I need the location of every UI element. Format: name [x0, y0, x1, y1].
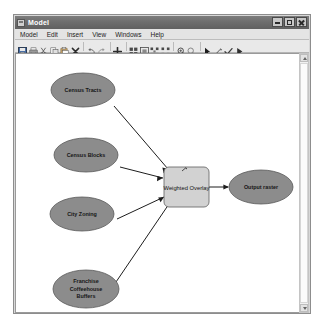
- model-icon: [17, 19, 25, 27]
- scroll-down-button[interactable]: [300, 304, 308, 312]
- print-icon[interactable]: [29, 42, 38, 51]
- menu-item-view[interactable]: View: [91, 31, 107, 38]
- run-icon[interactable]: [235, 42, 244, 51]
- menu-item-model[interactable]: Model: [19, 31, 39, 38]
- node-label-output-raster: Output raster: [244, 184, 279, 190]
- scroll-up-button[interactable]: [300, 54, 308, 62]
- arrowhead-output-raster: [223, 184, 229, 189]
- node-output-raster[interactable]: Output raster: [229, 170, 293, 204]
- full-extent-icon[interactable]: [140, 42, 149, 51]
- model-diagram: Census Tracts Census Blocks City Zoning …: [16, 54, 300, 313]
- delete-icon[interactable]: [71, 42, 80, 51]
- vertical-scrollbar[interactable]: [299, 53, 309, 313]
- run-check-icon[interactable]: [224, 42, 233, 51]
- toolbar-separator-2: [108, 42, 112, 51]
- node-label-census-blocks: Census Blocks: [67, 152, 106, 158]
- connector-census-blocks: [120, 167, 163, 178]
- connect-icon[interactable]: [214, 42, 223, 51]
- redo-icon[interactable]: [97, 42, 106, 51]
- node-label-franchise-line1: Franchise: [73, 278, 98, 284]
- toolbar: [15, 40, 309, 53]
- scrollbar-thumb[interactable]: [300, 63, 308, 303]
- menu-item-edit[interactable]: Edit: [46, 31, 59, 38]
- validate-icon[interactable]: [150, 42, 159, 51]
- copy-icon[interactable]: [50, 42, 59, 51]
- node-label-city-zoning: City Zoning: [67, 211, 97, 217]
- save-icon[interactable]: [18, 42, 27, 51]
- zoom-out-icon[interactable]: [187, 42, 196, 51]
- node-census-blocks[interactable]: Census Blocks: [54, 138, 118, 172]
- toolbar-separator-3: [124, 42, 128, 51]
- diagram-properties-icon[interactable]: [161, 42, 170, 51]
- toolbar-separator-4: [171, 42, 175, 51]
- menu-bar: Model Edit Insert View Windows Help: [15, 29, 309, 40]
- window-title: Model: [28, 19, 49, 26]
- add-data-icon[interactable]: [113, 42, 122, 51]
- model-canvas[interactable]: Census Tracts Census Blocks City Zoning …: [15, 53, 300, 313]
- select-pointer-icon[interactable]: [203, 42, 212, 51]
- undo-icon[interactable]: [87, 42, 96, 51]
- close-button[interactable]: [296, 17, 307, 27]
- node-label-franchise-line2: Coffeehouse: [70, 286, 103, 292]
- menu-item-insert[interactable]: Insert: [66, 31, 84, 38]
- node-label-franchise-line3: Buffers: [77, 293, 96, 299]
- menu-item-help[interactable]: Help: [150, 31, 165, 38]
- node-census-tracts[interactable]: Census Tracts: [51, 73, 115, 107]
- node-city-zoning[interactable]: City Zoning: [50, 197, 114, 231]
- connector-census-tracts: [114, 106, 168, 169]
- node-label-census-tracts: Census Tracts: [65, 87, 102, 93]
- maximize-button[interactable]: [284, 17, 295, 27]
- minimize-button[interactable]: [272, 17, 283, 27]
- cut-icon[interactable]: [39, 42, 48, 51]
- zoom-in-icon[interactable]: [177, 42, 186, 51]
- paste-icon[interactable]: [60, 42, 69, 51]
- connector-city-zoning: [117, 197, 164, 219]
- toolbar-separator-1: [81, 42, 85, 51]
- window-controls: [272, 17, 307, 27]
- title-bar[interactable]: Model: [15, 16, 309, 29]
- node-label-weighted-overlay: Weighted Overlay: [164, 185, 210, 191]
- connector-franchise-buffers: [116, 201, 171, 282]
- toolbar-separator-5: [198, 42, 202, 51]
- auto-layout-icon[interactable]: [129, 42, 138, 51]
- node-weighted-overlay[interactable]: Weighted Overlay: [164, 167, 210, 207]
- node-franchise-coffeehouse-buffers[interactable]: Franchise Coffeehouse Buffers: [53, 270, 119, 308]
- model-builder-window: Model Model Edit Insert View Windows Hel…: [13, 14, 311, 314]
- menu-item-windows[interactable]: Windows: [114, 31, 142, 38]
